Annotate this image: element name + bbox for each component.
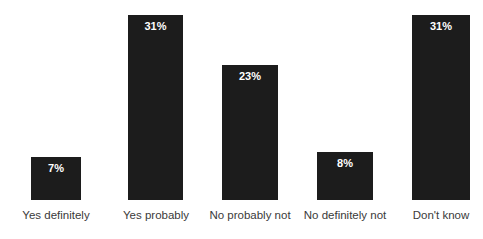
bar-value-label: 7% bbox=[31, 162, 81, 174]
bar-value-label: 31% bbox=[412, 20, 470, 32]
category-axis-labels: Yes definitely Yes probably No probably … bbox=[0, 208, 483, 228]
bar-yes-probably: 31% bbox=[128, 15, 183, 200]
bar-value-label: 31% bbox=[128, 20, 183, 32]
plot-area: 7% 31% 23% 8% 31% bbox=[0, 0, 483, 200]
bar-value-label: 8% bbox=[317, 157, 373, 169]
bar-dont-know: 31% bbox=[412, 15, 470, 200]
bar-group-no-definitely-not: 8% bbox=[317, 152, 373, 200]
bar-no-probably-not: 23% bbox=[222, 65, 278, 200]
category-label-dont-know: Don't know bbox=[376, 208, 483, 222]
bar-no-definitely-not: 8% bbox=[317, 152, 373, 200]
bar-group-no-probably-not: 23% bbox=[222, 65, 278, 200]
bar-value-label: 23% bbox=[222, 70, 278, 82]
bar-chart: 7% 31% 23% 8% 31% Yes definitely Yes pro bbox=[0, 0, 483, 239]
bar-group-yes-probably: 31% bbox=[128, 15, 183, 200]
bar-yes-definitely: 7% bbox=[31, 157, 81, 200]
bar-group-yes-definitely: 7% bbox=[31, 157, 81, 200]
bar-group-dont-know: 31% bbox=[412, 15, 470, 200]
